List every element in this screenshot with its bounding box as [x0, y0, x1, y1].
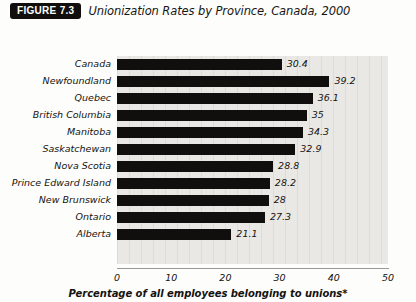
- bar-row: 34.3: [117, 127, 388, 138]
- bar-row: 39.2: [117, 76, 388, 87]
- bar-row: 28.2: [117, 178, 388, 189]
- category-label: Canada: [0, 58, 117, 70]
- bar: [117, 144, 295, 155]
- figure-title: Unionization Rates by Province, Canada, …: [88, 4, 350, 18]
- bar: [117, 229, 231, 240]
- bar-row: 28.8: [117, 161, 388, 172]
- category-label: New Brunswick: [0, 194, 117, 206]
- bar-value-label: 36.1: [318, 92, 339, 104]
- chart-area: CanadaNewfoundlandQuebecBritish Columbia…: [0, 40, 416, 302]
- category-label: Prince Edward Island: [0, 177, 117, 189]
- category-label: Ontario: [0, 211, 117, 223]
- figure-number-badge: FIGURE 7.3: [10, 3, 81, 19]
- bar-row: 27.3: [117, 212, 388, 223]
- bar-series: 30.439.236.13534.332.928.828.22827.321.1: [117, 56, 388, 264]
- x-axis-title: Percentage of all employees belonging to…: [0, 288, 416, 299]
- bar: [117, 110, 307, 121]
- figure-container: FIGURE 7.3 Unionization Rates by Provinc…: [0, 0, 416, 302]
- category-axis-labels: CanadaNewfoundlandQuebecBritish Columbia…: [0, 56, 117, 264]
- bar-value-label: 27.3: [270, 211, 291, 223]
- x-tick-label: 10: [165, 272, 177, 283]
- category-label: Saskatchewan: [0, 143, 117, 155]
- x-tick-label: 30: [274, 272, 286, 283]
- x-tick-label: 20: [219, 272, 231, 283]
- bar: [117, 93, 313, 104]
- bar-row: 30.4: [117, 59, 388, 70]
- bar-value-label: 32.9: [300, 143, 321, 155]
- bar-value-label: 28.8: [278, 160, 299, 172]
- bar: [117, 161, 273, 172]
- category-label: Alberta: [0, 228, 117, 240]
- bar: [117, 195, 269, 206]
- bar-value-label: 30.4: [287, 58, 308, 70]
- bar-row: 32.9: [117, 144, 388, 155]
- x-tick-label: 40: [328, 272, 340, 283]
- bar-value-label: 39.2: [334, 75, 355, 87]
- bar-value-label: 21.1: [236, 228, 257, 240]
- bar-value-label: 28: [274, 194, 286, 206]
- category-label: Manitoba: [0, 126, 117, 138]
- category-label: British Columbia: [0, 109, 117, 121]
- category-label: Nova Scotia: [0, 160, 117, 172]
- bar-row: 36.1: [117, 93, 388, 104]
- x-tick-label: 0: [114, 272, 120, 283]
- bar: [117, 76, 329, 87]
- bar-value-label: 35: [312, 109, 324, 121]
- bar-row: 21.1: [117, 229, 388, 240]
- bar: [117, 178, 270, 189]
- x-tick-label: 50: [382, 272, 394, 283]
- bar-row: 35: [117, 110, 388, 121]
- bar-value-label: 28.2: [275, 177, 296, 189]
- figure-header: FIGURE 7.3 Unionization Rates by Provinc…: [0, 0, 416, 22]
- bar: [117, 59, 282, 70]
- bar: [117, 127, 303, 138]
- bar: [117, 212, 265, 223]
- bar-value-label: 34.3: [308, 126, 329, 138]
- bar-row: 28: [117, 195, 388, 206]
- x-axis-line: [117, 268, 389, 269]
- category-label: Newfoundland: [0, 75, 117, 87]
- category-label: Quebec: [0, 92, 117, 104]
